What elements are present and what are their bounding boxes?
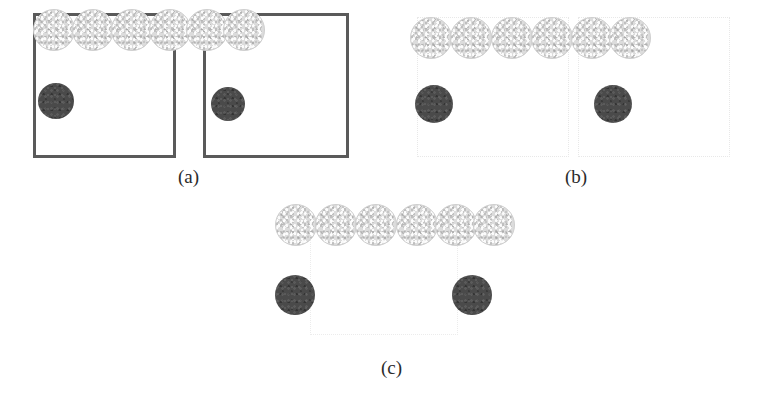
panel-c-light-circle-3 (355, 204, 397, 246)
panel-c-light-circle-5 (435, 204, 477, 246)
panel-c-dark-circle-1 (275, 275, 315, 315)
figure-canvas: (a)(b)(c) (0, 0, 767, 406)
panel-c-light-circle-4 (396, 204, 438, 246)
panel-c-light-circle-2 (315, 204, 357, 246)
panel-c-light-circle-6 (473, 204, 515, 246)
panel-label-c: (c) (381, 358, 402, 377)
panel-c-light-circle-1 (275, 204, 317, 246)
panel-c-dark-circle-2 (452, 275, 492, 315)
panel-c: (c) (0, 0, 767, 406)
